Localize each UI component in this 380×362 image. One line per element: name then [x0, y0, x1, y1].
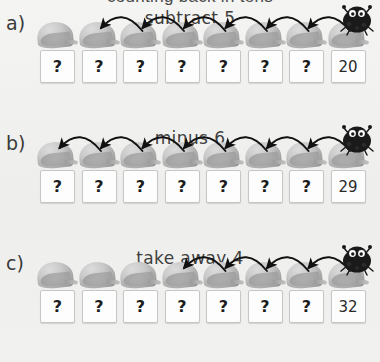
leaf-icon: [160, 262, 204, 292]
answer-box-blank[interactable]: ?: [206, 290, 241, 323]
leaf-blade: [285, 260, 324, 290]
leaf-icon: [35, 22, 79, 52]
answer-box-blank[interactable]: ?: [82, 170, 117, 203]
leaf-icon: [243, 22, 287, 52]
leaf-blade: [36, 140, 75, 170]
leaf-blade: [202, 260, 241, 290]
row-stage-b: ???????29: [0, 120, 380, 240]
leaf-blade: [160, 140, 199, 170]
answer-box-blank[interactable]: ?: [40, 50, 75, 83]
answer-box-blank[interactable]: ?: [123, 50, 158, 83]
worksheet-page: counting back in tens a) subtract 5 ????…: [0, 0, 380, 362]
exercise-row-c: c) take away 4 ???????32: [0, 240, 380, 360]
leaf-blade: [36, 20, 75, 50]
leaf-icon: [284, 22, 328, 52]
leaf-blade: [119, 20, 158, 50]
leaf-icon: [77, 262, 121, 292]
leaf-icon: [118, 22, 162, 52]
answer-box-given[interactable]: 20: [331, 50, 366, 83]
row-stage-a: ???????20: [0, 0, 380, 120]
answer-box-blank[interactable]: ?: [165, 50, 200, 83]
leaf-blade: [243, 260, 282, 290]
leaf-blade: [77, 20, 116, 50]
answer-box-blank[interactable]: ?: [289, 290, 324, 323]
answer-box-blank[interactable]: ?: [248, 290, 283, 323]
leaf-icon: [201, 262, 245, 292]
leaf-blade: [119, 140, 158, 170]
answer-box-blank[interactable]: ?: [206, 170, 241, 203]
leaf-icon: [201, 142, 245, 172]
ladybug-icon: [335, 0, 380, 38]
answer-box-blank[interactable]: ?: [40, 170, 75, 203]
ladybug-icon: [335, 240, 380, 278]
answer-box-blank[interactable]: ?: [82, 50, 117, 83]
leaf-icon: [77, 142, 121, 172]
leaf-icon: [35, 142, 79, 172]
leaf-blade: [36, 260, 75, 290]
answer-box-blank[interactable]: ?: [40, 290, 75, 323]
leaf-blade: [285, 20, 324, 50]
answer-box-blank[interactable]: ?: [289, 170, 324, 203]
leaf-icon: [160, 22, 204, 52]
answer-box-blank[interactable]: ?: [123, 290, 158, 323]
leaf-blade: [160, 20, 199, 50]
leaf-icon: [118, 142, 162, 172]
leaf-icon: [118, 262, 162, 292]
answer-box-blank[interactable]: ?: [123, 170, 158, 203]
answer-box-given[interactable]: 32: [331, 290, 366, 323]
answer-box-given[interactable]: 29: [331, 170, 366, 203]
leaf-icon: [284, 262, 328, 292]
leaf-blade: [77, 260, 116, 290]
answer-box-blank[interactable]: ?: [206, 50, 241, 83]
answer-box-blank[interactable]: ?: [82, 290, 117, 323]
leaf-blade: [243, 20, 282, 50]
leaf-blade: [202, 140, 241, 170]
exercise-row-a: a) subtract 5 ???????20: [0, 0, 380, 120]
leaf-blade: [243, 140, 282, 170]
leaf-icon: [77, 22, 121, 52]
leaf-blade: [160, 260, 199, 290]
leaf-icon: [284, 142, 328, 172]
leaf-icon: [201, 22, 245, 52]
exercise-row-b: b) minus 6 ???????29: [0, 120, 380, 240]
answer-box-blank[interactable]: ?: [289, 50, 324, 83]
leaf-blade: [285, 140, 324, 170]
leaf-icon: [35, 262, 79, 292]
answer-box-blank[interactable]: ?: [165, 290, 200, 323]
leaf-icon: [243, 262, 287, 292]
answer-box-blank[interactable]: ?: [248, 50, 283, 83]
ladybug-icon: [335, 120, 380, 158]
leaf-icon: [243, 142, 287, 172]
row-stage-c: ???????32: [0, 240, 380, 360]
leaf-icon: [160, 142, 204, 172]
leaf-blade: [77, 140, 116, 170]
answer-box-blank[interactable]: ?: [165, 170, 200, 203]
answer-box-blank[interactable]: ?: [248, 170, 283, 203]
leaf-blade: [119, 260, 158, 290]
leaf-blade: [202, 20, 241, 50]
